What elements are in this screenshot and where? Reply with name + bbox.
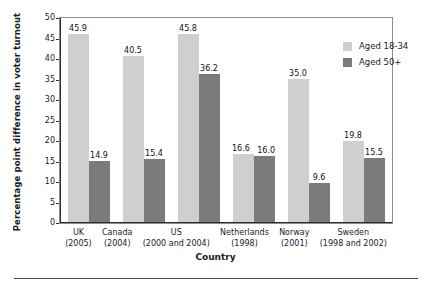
y-axis-tick-label: 40	[33, 55, 55, 63]
y-axis-tick-label: 10	[33, 178, 55, 186]
bar[interactable]: 16.0	[254, 156, 275, 222]
bar-group: 45.914.9	[68, 19, 110, 222]
x-axis-year: (2001)	[279, 239, 309, 250]
legend-label: Aged 50+	[359, 58, 401, 67]
bar-value-label: 15.5	[365, 148, 383, 157]
y-axis-tick-mark	[56, 182, 59, 183]
legend-item[interactable]: Aged 18-34	[343, 42, 431, 51]
bar-group: 16.616.0	[233, 19, 275, 222]
bar[interactable]: 36.2	[199, 74, 220, 222]
y-axis-tick-label: 5	[33, 199, 55, 207]
y-axis-tick-mark	[56, 100, 59, 101]
bar-value-label: 45.8	[179, 24, 197, 33]
bar[interactable]: 45.8	[178, 34, 199, 222]
bottom-divider	[14, 278, 418, 279]
y-axis-tick-mark	[56, 80, 59, 81]
y-axis-tick-mark	[56, 39, 59, 40]
y-axis-tick-labels: 05101520253035404550	[33, 0, 55, 289]
y-axis-tick-mark	[56, 203, 59, 204]
bar-value-label: 40.5	[124, 46, 142, 55]
y-axis-tick-mark	[56, 223, 59, 224]
y-axis-tick-mark	[56, 162, 59, 163]
x-axis-tick-label: Netherlands(1998)	[220, 228, 269, 249]
x-axis-tick-label: Sweden(1998 and 2002)	[320, 228, 387, 249]
x-axis-country-name: Netherlands	[220, 228, 269, 239]
x-axis-tick-label: UK(2005)	[65, 228, 92, 249]
y-axis-tick-label: 30	[33, 96, 55, 104]
y-axis-tick-label: 0	[33, 219, 55, 227]
legend: Aged 18-34Aged 50+	[343, 42, 431, 74]
bar[interactable]: 15.5	[364, 158, 385, 222]
y-axis-tick-label: 45	[33, 35, 55, 43]
x-axis-year: (1998)	[220, 239, 269, 250]
x-axis-country-name: UK	[65, 228, 92, 239]
bar[interactable]: 14.9	[89, 161, 110, 222]
bar-groups: 45.914.940.515.445.836.216.616.035.09.61…	[61, 19, 391, 222]
bar[interactable]: 19.8	[343, 141, 364, 222]
x-axis-year: (2005)	[65, 239, 92, 250]
bar-value-label: 35.0	[289, 69, 307, 78]
bar-value-label: 16.0	[257, 146, 275, 155]
x-axis-title: Country	[0, 252, 431, 262]
bar-group: 40.515.4	[123, 19, 165, 222]
bar-value-label: 16.6	[232, 144, 250, 153]
y-axis-tick-mark	[56, 18, 59, 19]
y-axis-tick-mark	[56, 59, 59, 60]
y-axis-tick-label: 25	[33, 117, 55, 125]
x-axis-year: (2000 and 2004)	[143, 239, 210, 250]
x-axis-tick-label: US(2000 and 2004)	[143, 228, 210, 249]
y-axis-tick-label: 50	[33, 14, 55, 22]
y-axis-tick-mark	[56, 141, 59, 142]
bar[interactable]: 40.5	[123, 56, 144, 222]
bar-group: 35.09.6	[288, 19, 330, 222]
legend-label: Aged 18-34	[359, 42, 408, 51]
legend-swatch-icon	[343, 42, 352, 51]
bar-value-label: 9.6	[313, 173, 326, 182]
bar-value-label: 14.9	[90, 151, 108, 160]
bar-value-label: 36.2	[200, 64, 218, 73]
y-axis-tick-label: 35	[33, 76, 55, 84]
y-axis-title-container: Percentage point difference in voter tur…	[2, 22, 32, 222]
bar[interactable]: 15.4	[144, 159, 165, 222]
x-axis-tick-label: Norway(2001)	[279, 228, 309, 249]
bar-group: 45.836.2	[178, 19, 220, 222]
x-axis-country-name: Norway	[279, 228, 309, 239]
bar[interactable]: 35.0	[288, 79, 309, 223]
bar-value-label: 45.9	[69, 24, 87, 33]
bar[interactable]: 45.9	[68, 34, 89, 222]
bar-value-label: 15.4	[145, 149, 163, 158]
y-axis-tick-label: 15	[33, 158, 55, 166]
x-axis-year: (2004)	[102, 239, 132, 250]
x-axis-country-name: US	[143, 228, 210, 239]
x-axis-country-name: Sweden	[320, 228, 387, 239]
x-axis-tick-labels: UK(2005)Canada(2004)US(2000 and 2004)Net…	[60, 228, 392, 249]
y-axis-tick-label: 20	[33, 137, 55, 145]
legend-item[interactable]: Aged 50+	[343, 58, 431, 67]
x-axis-tick-label: Canada(2004)	[102, 228, 132, 249]
x-axis-country-name: Canada	[102, 228, 132, 239]
bar-value-label: 19.8	[344, 131, 362, 140]
y-axis-title: Percentage point difference in voter tur…	[12, 13, 23, 232]
bar-chart-figure: Percentage point difference in voter tur…	[0, 0, 431, 289]
bar[interactable]: 9.6	[309, 183, 330, 222]
plot-area: 45.914.940.515.445.836.216.616.035.09.61…	[59, 17, 393, 224]
bar[interactable]: 16.6	[233, 154, 254, 222]
legend-swatch-icon	[343, 58, 352, 67]
y-axis-tick-mark	[56, 121, 59, 122]
x-axis-year: (1998 and 2002)	[320, 239, 387, 250]
